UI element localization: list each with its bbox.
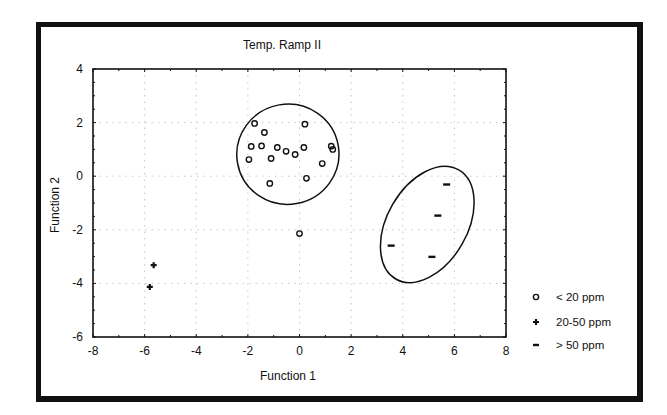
- data-point-low: [301, 145, 306, 150]
- legend-label: 20-50 ppm: [556, 316, 611, 328]
- x-tick-label: -6: [139, 344, 150, 358]
- data-point-low: [252, 121, 257, 126]
- open-circle-icon: [533, 294, 538, 299]
- y-tick-label: 0: [76, 169, 83, 183]
- y-tick-label: -2: [72, 223, 83, 237]
- legend-item-high: > 50 ppm: [533, 339, 604, 351]
- plus-icon: [533, 319, 539, 325]
- group-ellipse: [229, 96, 347, 212]
- data-point-low: [292, 152, 297, 157]
- x-tick-label: -8: [88, 344, 99, 358]
- x-tick-label: 0: [296, 344, 303, 358]
- y-tick-label: -6: [72, 330, 83, 344]
- data-point-low: [268, 156, 273, 161]
- legend-label: > 50 ppm: [556, 339, 604, 351]
- legend-label: < 20 ppm: [556, 291, 604, 303]
- chart-title: Temp. Ramp II: [243, 38, 321, 52]
- x-tick-label: -2: [243, 344, 254, 358]
- scatter-chart: -8-6-4-202468 -6-4-2024 Temp. Ramp II Fu…: [0, 0, 667, 415]
- x-tick-label: 2: [348, 344, 355, 358]
- x-axis-tick-labels: -8-6-4-202468: [88, 344, 510, 358]
- data-point-low: [283, 149, 288, 154]
- x-tick-label: -4: [191, 344, 202, 358]
- data-point-low: [302, 122, 307, 127]
- y-axis-tick-labels: -6-4-2024: [72, 62, 83, 344]
- data-point-mid: [147, 284, 153, 290]
- x-tick-label: 6: [451, 344, 458, 358]
- legend-item-low: < 20 ppm: [533, 291, 604, 303]
- data-point-low: [262, 130, 267, 135]
- data-point-low: [275, 145, 280, 150]
- data-point-low: [246, 157, 251, 162]
- y-axis-label: Function 2: [48, 177, 62, 233]
- data-point-low: [259, 143, 264, 148]
- data-points: [147, 121, 450, 290]
- data-point-mid: [151, 262, 157, 268]
- y-tick-label: 2: [76, 116, 83, 130]
- data-point-low: [320, 161, 325, 166]
- data-point-low: [267, 181, 272, 186]
- y-tick-label: 4: [76, 62, 83, 76]
- x-axis-label: Function 1: [260, 369, 316, 383]
- group-ellipse: [361, 150, 493, 299]
- x-tick-label: 8: [503, 344, 510, 358]
- data-point-low: [249, 144, 254, 149]
- x-tick-label: 4: [399, 344, 406, 358]
- data-point-low: [304, 176, 309, 181]
- legend-item-mid: 20-50 ppm: [533, 316, 611, 328]
- legend: < 20 ppm 20-50 ppm > 50 ppm: [533, 291, 611, 351]
- group-ellipses: [229, 96, 494, 299]
- y-tick-label: -4: [72, 276, 83, 290]
